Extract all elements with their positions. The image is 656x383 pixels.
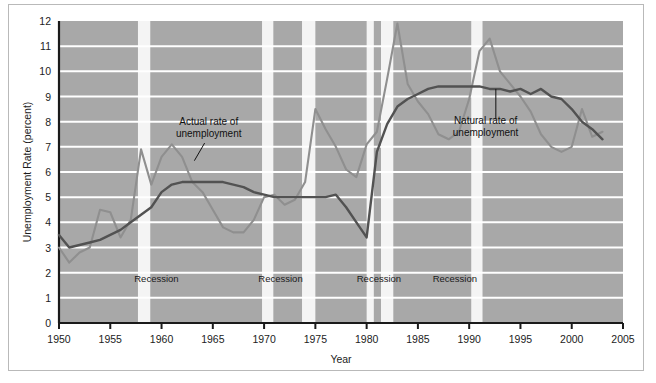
y-tick-label-4: 4 bbox=[45, 216, 51, 228]
x-tick-label-1955: 1955 bbox=[99, 333, 123, 345]
y-tick-label-6: 6 bbox=[45, 166, 51, 178]
x-tick-label-1985: 1985 bbox=[406, 333, 430, 345]
x-tick-label-2005: 2005 bbox=[611, 333, 635, 345]
x-tick-label-1960: 1960 bbox=[150, 333, 174, 345]
recession-label-3: Recession bbox=[433, 273, 477, 284]
recession-label-0: Recession bbox=[134, 273, 178, 284]
x-tick-label-1950: 1950 bbox=[47, 333, 71, 345]
y-tick-label-11: 11 bbox=[40, 40, 51, 52]
y-tick-label-7: 7 bbox=[45, 141, 51, 153]
x-tick-label-1980: 1980 bbox=[355, 333, 379, 345]
x-axis-title: Year bbox=[330, 353, 352, 365]
x-tick-label-1995: 1995 bbox=[509, 333, 533, 345]
recession-label-1: Recession bbox=[258, 273, 302, 284]
y-tick-label-2: 2 bbox=[45, 267, 51, 279]
actual-rate-annotation-line1: Actual rate of bbox=[179, 116, 238, 127]
y-tick-label-1: 1 bbox=[45, 292, 51, 304]
x-tick-label-1990: 1990 bbox=[458, 333, 482, 345]
recession-label-2: Recession bbox=[357, 273, 401, 284]
figure-frame: 0123456789101112195019551960196519701975… bbox=[8, 4, 644, 371]
unemployment-rate-chart: 0123456789101112195019551960196519701975… bbox=[9, 5, 645, 372]
actual-rate-annotation-line2: unemployment bbox=[176, 128, 242, 139]
y-tick-label-8: 8 bbox=[45, 116, 51, 128]
y-tick-label-0: 0 bbox=[45, 317, 51, 329]
x-tick-label-1965: 1965 bbox=[201, 333, 225, 345]
y-tick-label-5: 5 bbox=[45, 191, 51, 203]
x-tick-label-2000: 2000 bbox=[560, 333, 584, 345]
x-tick-label-1975: 1975 bbox=[304, 333, 328, 345]
x-tick-label-1970: 1970 bbox=[252, 333, 276, 345]
natural-rate-annotation-line1: Natural rate of bbox=[454, 115, 518, 126]
y-axis-title: Unemployment Rate (percent) bbox=[21, 102, 33, 243]
natural-rate-annotation-line2: unemployment bbox=[453, 127, 519, 138]
y-tick-label-12: 12 bbox=[39, 15, 51, 27]
y-tick-label-9: 9 bbox=[45, 91, 51, 103]
y-tick-label-3: 3 bbox=[45, 242, 51, 254]
y-tick-label-10: 10 bbox=[39, 65, 51, 77]
